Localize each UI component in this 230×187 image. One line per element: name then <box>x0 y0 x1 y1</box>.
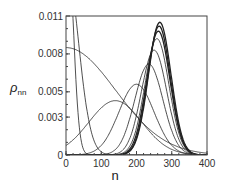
chart: 010020030040000.0030.0050.0080.011 n ρnn <box>0 0 230 187</box>
y-tick-label: 0.011 <box>39 11 64 22</box>
y-tick-label: 0.005 <box>38 86 63 97</box>
plot-curves <box>66 0 207 155</box>
x-tick-label: 0 <box>63 158 69 169</box>
x-tick-label: 200 <box>128 158 145 169</box>
series-curve-10 <box>66 26 207 155</box>
y-tick-label: 0.008 <box>38 48 63 59</box>
x-tick-label: 300 <box>163 158 180 169</box>
y-tick-label: 0.003 <box>38 112 63 123</box>
y-tick-label: 0 <box>57 150 63 161</box>
x-axis-label: n <box>111 168 118 183</box>
x-tick-label: 100 <box>93 158 110 169</box>
series-curve-5 <box>66 84 207 155</box>
x-tick-label: 400 <box>199 158 216 169</box>
y-axis-label: ρnn <box>9 80 26 97</box>
